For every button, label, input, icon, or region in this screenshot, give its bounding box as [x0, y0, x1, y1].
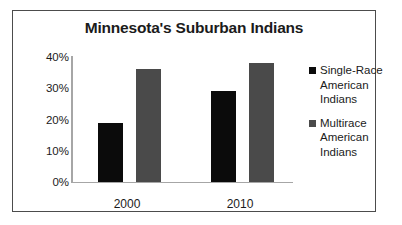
chart-frame: Minnesota's Suburban Indians 40% 30% 20%… — [12, 10, 376, 212]
bar-2000-single-race — [98, 123, 123, 182]
y-axis-tick-30: 30% — [27, 82, 69, 94]
chart-screenshot: Minnesota's Suburban Indians 40% 30% 20%… — [0, 0, 402, 225]
legend-label-line-1: Single-Race — [320, 64, 383, 76]
plot-area — [71, 47, 293, 193]
y-axis-tick-40: 40% — [27, 51, 69, 63]
legend-label-multirace: Multirace American Indians — [320, 116, 369, 160]
legend-label-line-2: American — [320, 131, 369, 143]
y-axis-tick-10: 10% — [27, 145, 69, 157]
chart-title: Minnesota's Suburban Indians — [13, 19, 375, 37]
legend-label-line-3: Indians — [320, 146, 357, 158]
legend-label-line-2: American — [320, 79, 369, 91]
chart-legend: Single-Race American Indians Multirace A… — [309, 63, 387, 168]
legend-label-line-1: Multirace — [320, 117, 367, 129]
y-axis-tick-labels: 40% 30% 20% 10% 0% — [27, 47, 69, 193]
legend-swatch-icon-single-race — [309, 67, 316, 74]
legend-item-single-race: Single-Race American Indians — [309, 63, 387, 107]
legend-label-single-race: Single-Race American Indians — [320, 63, 383, 107]
bar-2000-multirace — [136, 69, 161, 182]
x-axis-tick-2010: 2010 — [205, 197, 275, 211]
x-axis-tick-labels: 2000 2010 — [71, 197, 293, 215]
x-axis-tick-2000: 2000 — [92, 197, 162, 211]
legend-item-multirace: Multirace American Indians — [309, 116, 387, 160]
bar-2010-multirace — [249, 63, 274, 182]
bar-group-container — [71, 47, 293, 193]
legend-swatch-icon-multirace — [309, 120, 316, 127]
bar-2010-single-race — [211, 91, 236, 182]
y-axis-tick-20: 20% — [27, 114, 69, 126]
y-axis-tick-0: 0% — [27, 176, 69, 188]
legend-label-line-3: Indians — [320, 93, 357, 105]
